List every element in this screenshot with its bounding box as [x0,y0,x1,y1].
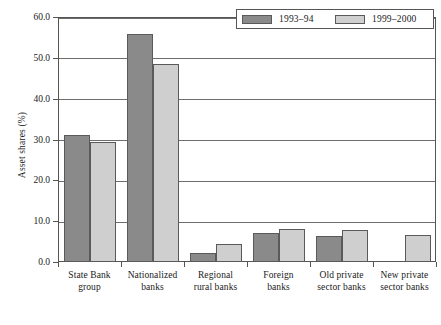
bar [190,253,216,262]
bars-layer [58,17,436,262]
x-axis-label-line: group [58,281,121,293]
bar-group [58,17,121,262]
x-axis-label-line: sector banks [373,281,436,293]
bar-group [373,17,436,262]
y-axis-tick-label: 40.0 [0,94,50,104]
bar-group [184,17,247,262]
x-axis-label: Nationalizedbanks [121,269,184,293]
bar [127,34,153,262]
bar [253,233,279,262]
x-axis-tick-mark [58,262,59,267]
x-axis-label: Regionalrural banks [184,269,247,293]
x-axis-label-line: Old private [310,269,373,281]
legend-item: 1999–2000 [335,14,428,24]
x-axis-label-line: Regional [184,269,247,281]
x-axis-label-line: rural banks [184,281,247,293]
y-axis-tick-label: 10.0 [0,216,50,226]
legend-label: 1999–2000 [372,14,417,24]
x-axis-label-line: New private [373,269,436,281]
bar [316,236,342,262]
bar [279,229,305,262]
x-axis-label-line: banks [247,281,310,293]
bar [216,244,242,262]
bar-group [121,17,184,262]
bar [405,235,431,262]
x-axis-label-line: State Bank [58,269,121,281]
legend-item: 1993–94 [242,14,335,24]
bar-chart: Asset shares (%) 0.010.020.030.040.050.0… [0,0,441,325]
bar [90,142,116,262]
bar [342,230,368,262]
bar-group [310,17,373,262]
legend-swatch-icon [335,15,365,24]
chart-legend: 1993–94 1999–2000 [236,9,434,29]
x-axis-label: Old privatesector banks [310,269,373,293]
x-axis-label: State Bankgroup [58,269,121,293]
y-axis-tick-label: 50.0 [0,53,50,63]
x-axis-label: New privatesector banks [373,269,436,293]
bar [64,135,90,262]
bar-group [247,17,310,262]
bar [153,64,179,262]
legend-swatch-icon [242,15,272,24]
y-axis-tick-label: 20.0 [0,175,50,185]
y-axis-tick-label: 0.0 [0,257,50,267]
x-axis-tick-mark [184,262,185,267]
y-axis-tick-label: 60.0 [0,12,50,22]
x-axis-tick-mark [121,262,122,267]
x-axis-label-line: sector banks [310,281,373,293]
x-axis-label: Foreignbanks [247,269,310,293]
x-axis-tick-mark [436,262,437,267]
y-axis-tick-label: 30.0 [0,135,50,145]
x-axis-label-line: Nationalized [121,269,184,281]
x-axis-label-line: Foreign [247,269,310,281]
x-axis-tick-mark [310,262,311,267]
x-axis-tick-mark [373,262,374,267]
x-axis-tick-mark [247,262,248,267]
legend-label: 1993–94 [279,14,314,24]
x-axis-label-line: banks [121,281,184,293]
